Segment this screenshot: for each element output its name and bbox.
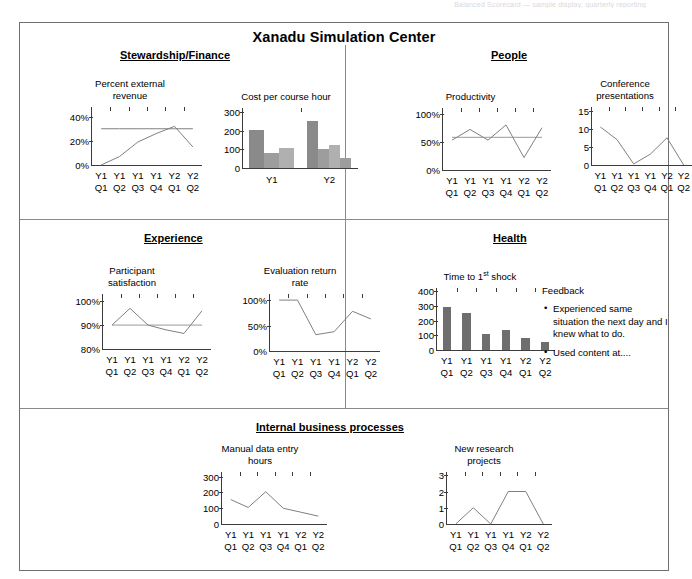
x-axis-label: Y2 Q2 (310, 529, 328, 552)
x-axis-label: Y2 Q2 (184, 170, 202, 193)
x-axis-label: Y1 Q4 (500, 529, 518, 552)
x-axis-label: Y1 Q3 (625, 170, 642, 193)
section-heading-people: People (491, 49, 527, 61)
chart-title: Time to 1st shock (410, 268, 550, 283)
x-axis-label: Y2 Q1 (516, 355, 536, 378)
x-axis-label: Y1 Q4 (496, 355, 516, 378)
chart-participant-satisfaction: Participant satisfaction80%90%100%Y1 Q1Y… (68, 265, 196, 383)
series-lines (592, 107, 692, 165)
x-axis-label: Y1 Q1 (443, 175, 461, 198)
x-axis-label: Y2 Q2 (675, 170, 692, 193)
x-axis-tick (476, 288, 477, 292)
section-heading-internal: Internal business processes (256, 421, 404, 433)
x-axis-label: Y1 Q2 (465, 529, 483, 552)
y-axis-tick (434, 321, 438, 322)
feedback-item: Experienced same situation the next day … (553, 303, 668, 340)
plot-frame: 0100200300Y1Y2 (242, 108, 358, 169)
x-axis-label: Y1 Q3 (307, 356, 325, 379)
x-axis-label: Y1 Q3 (482, 529, 500, 552)
y-axis-label: 0% (75, 160, 92, 171)
y-axis-tick (240, 149, 244, 150)
x-axis-label: Y1 Q4 (497, 175, 515, 198)
x-axis-label: Y2 Q2 (362, 356, 380, 379)
x-axis-label: Y1 Q4 (642, 170, 659, 193)
x-axis-tick (496, 288, 497, 292)
x-axis-label: Y2 Q2 (193, 354, 211, 377)
y-axis-label: 0 (584, 160, 592, 171)
x-axis-labels: Y1 Q1Y1 Q2Y1 Q3Y1 Q4Y2 Q1Y2 Q2 (443, 175, 551, 198)
feedback-item: Used content at.... (553, 347, 668, 359)
x-axis-label: Y2 Q2 (535, 529, 553, 552)
dashboard-frame: Xanadu Simulation Center Stewardship/Fin… (19, 22, 669, 571)
x-axis-labels: Y1 Q1Y1 Q2Y1 Q3Y1 Q4Y2 Q1Y2 Q2 (447, 529, 552, 552)
chart-cost-per-course-hour: Cost per course hour0100200300Y1Y2 (216, 91, 356, 202)
x-axis-tick (457, 288, 458, 292)
chart-manual-data-entry-hours: Manual data entry hours0100200300Y1 Q1Y1… (195, 443, 325, 558)
plot-frame: 80%90%100%Y1 Q1Y1 Q2Y1 Q3Y1 Q4Y2 Q1Y2 Q2 (102, 294, 211, 350)
x-axis-label: Y1 Q3 (129, 170, 147, 193)
x-axis-labels: Y1 Q1Y1 Q2Y1 Q3Y1 Q4Y2 Q1Y2 Q2 (592, 170, 692, 193)
x-axis-tick (535, 288, 536, 292)
chart-time-to-first-shock: Time to 1st shock0100200300400Y1 Q1Y1 Q2… (410, 268, 550, 384)
plot-area: 0%50%100%Y1 Q1Y1 Q2Y1 Q3Y1 Q4Y2 Q1Y2 Q2 (235, 294, 365, 385)
series-lines (443, 108, 551, 170)
feedback-block: Feedback Experienced same situation the … (542, 285, 668, 366)
x-axis-label: Y2 Q1 (515, 175, 533, 198)
bar (502, 330, 511, 350)
bar (462, 313, 471, 350)
x-axis-label: Y1 Q2 (240, 529, 258, 552)
bar (249, 130, 263, 168)
chart-title: Evaluation return rate (235, 265, 365, 289)
chart-title: Manual data entry hours (195, 443, 325, 467)
x-axis-labels: Y1 Q1Y1 Q2Y1 Q3Y1 Q4Y2 Q1Y2 Q2 (270, 356, 380, 379)
y-axis-tick (434, 291, 438, 292)
section-heading-health: Health (493, 232, 527, 244)
x-axis-label: Y2 Q1 (175, 354, 193, 377)
chart-title: Productivity (408, 91, 533, 103)
x-axis-label: Y1 Q1 (222, 529, 240, 552)
x-axis-label: Y1 Q1 (270, 356, 288, 379)
bar (307, 121, 318, 168)
series-lines (92, 107, 202, 165)
plot-frame: 051015Y1 Q1Y1 Q2Y1 Q3Y1 Q4Y2 Q1Y2 Q2 (591, 107, 692, 166)
x-axis-label: Y1 Q2 (121, 354, 139, 377)
bar (482, 334, 491, 350)
plot-area: 0123Y1 Q1Y1 Q2Y1 Q3Y1 Q4Y2 Q1Y2 Q2 (420, 472, 548, 558)
x-axis-label: Y1 Q1 (447, 529, 465, 552)
plot-frame: 0100200300Y1 Q1Y1 Q2Y1 Q3Y1 Q4Y2 Q1Y2 Q2 (221, 472, 327, 525)
bar (264, 153, 278, 168)
x-axis-label: Y1 Q1 (92, 170, 110, 193)
x-axis-label: Y1 Q4 (157, 354, 175, 377)
chart-title: Conference presentations (565, 78, 685, 102)
feedback-list: Experienced same situation the next day … (542, 303, 668, 359)
x-axis-label: Y1 Q3 (479, 175, 497, 198)
plot-area: 80%90%100%Y1 Q1Y1 Q2Y1 Q3Y1 Q4Y2 Q1Y2 Q2 (68, 294, 196, 383)
plot-area: 0%50%100%Y1 Q1Y1 Q2Y1 Q3Y1 Q4Y2 Q1Y2 Q2 (408, 108, 533, 204)
series-lines (222, 472, 327, 524)
x-axis-tick (516, 288, 517, 292)
y-axis-tick (434, 306, 438, 307)
x-axis-label: Y1 Q1 (437, 355, 457, 378)
plot-frame: 0100200300400Y1 Q1Y1 Q2Y1 Q3Y1 Q4Y2 Q1Y2… (436, 288, 555, 351)
y-axis-label: 0 (429, 345, 437, 356)
x-axis-label: Y1 Q4 (147, 170, 165, 193)
faint-page-header: Balanced Scorecard — sample display, qua… (430, 1, 670, 8)
x-axis-label: Y2 Q1 (165, 170, 183, 193)
y-axis-tick (434, 335, 438, 336)
section-heading-experience: Experience (144, 232, 203, 244)
x-axis-labels: Y1 Q1Y1 Q2Y1 Q3Y1 Q4Y2 Q1Y2 Q2 (437, 355, 555, 378)
plot-area: 0100200300Y1Y2 (216, 108, 356, 202)
y-axis-label: 0 (235, 163, 243, 174)
chart-title: Percent external revenue (65, 78, 195, 102)
x-axis-label: Y1 Q3 (139, 354, 157, 377)
chart-title: New research projects (420, 443, 548, 467)
y-axis-label: 0% (426, 165, 443, 176)
chart-percent-external-revenue: Percent external revenue0%20%40%Y1 Q1Y1 … (65, 78, 195, 199)
feedback-title: Feedback (542, 285, 668, 297)
chart-conference-presentations: Conference presentations051015Y1 Q1Y1 Q2… (565, 78, 685, 199)
x-axis-labels: Y1 Q1Y1 Q2Y1 Q3Y1 Q4Y2 Q1Y2 Q2 (222, 529, 327, 552)
bar (340, 158, 351, 168)
x-axis-label: Y1 Q4 (275, 529, 293, 552)
x-axis-labels: Y1 Q1Y1 Q2Y1 Q3Y1 Q4Y2 Q1Y2 Q2 (103, 354, 211, 377)
bar (443, 307, 452, 350)
